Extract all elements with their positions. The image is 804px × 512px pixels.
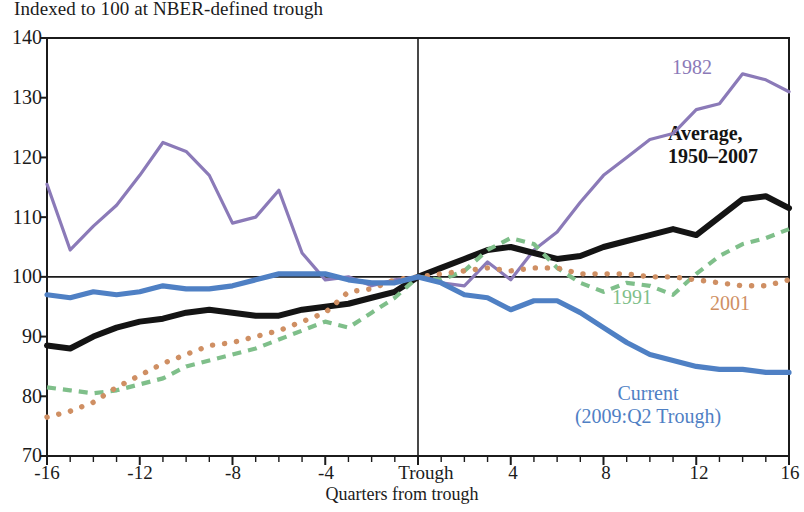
chart-figure: Indexed to 100 at NBER-defined trough 14… [0, 0, 804, 512]
chart-plot-area [0, 0, 804, 512]
